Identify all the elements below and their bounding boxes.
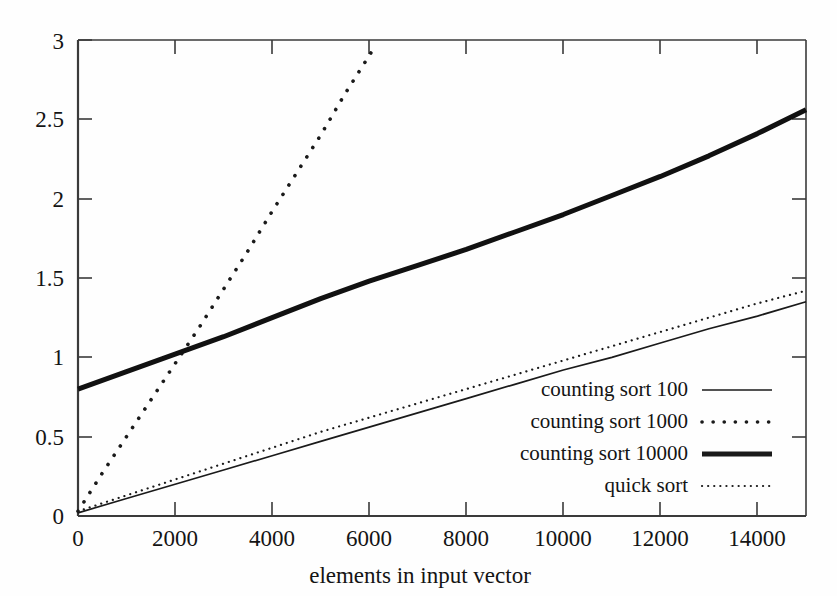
legend-label-0: counting sort 100 bbox=[541, 377, 688, 401]
chart-page: 0 0.5 1 1.5 2 2.5 3 0 2000 4000 6000 800… bbox=[0, 0, 837, 596]
ytick-label: 2.5 bbox=[35, 107, 64, 132]
xtick-label: 10000 bbox=[534, 526, 592, 551]
xtick-label: 8000 bbox=[443, 526, 489, 551]
ytick-label: 0.5 bbox=[35, 425, 64, 450]
legend-label-3: quick sort bbox=[605, 473, 689, 497]
ytick-label: 0 bbox=[53, 504, 65, 529]
legend-label-2: counting sort 10000 bbox=[520, 441, 688, 465]
ytick-label: 2 bbox=[53, 187, 65, 212]
ytick-label: 1.5 bbox=[35, 266, 64, 291]
x-axis-title: elements in input vector bbox=[309, 563, 531, 588]
line-chart: 0 0.5 1 1.5 2 2.5 3 0 2000 4000 6000 800… bbox=[0, 0, 837, 596]
xtick-label: 0 bbox=[72, 526, 84, 551]
xtick-label: 14000 bbox=[728, 526, 786, 551]
chart-background bbox=[0, 0, 837, 596]
legend-label-1: counting sort 1000 bbox=[531, 409, 689, 433]
xtick-label: 4000 bbox=[249, 526, 295, 551]
xtick-label: 2000 bbox=[152, 526, 198, 551]
xtick-label: 12000 bbox=[631, 526, 689, 551]
xtick-label: 6000 bbox=[346, 526, 392, 551]
ytick-label: 1 bbox=[53, 345, 65, 370]
ytick-label: 3 bbox=[53, 29, 65, 54]
